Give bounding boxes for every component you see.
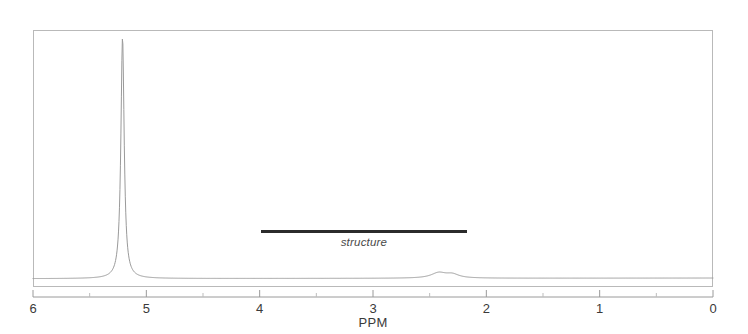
axis-tick-label: 4 [245, 301, 275, 316]
axis-title-ppm: PPM [333, 315, 413, 330]
axis-tick-marks [33, 290, 713, 297]
structure-label: structure [261, 236, 467, 248]
axis-tick-label: 5 [131, 301, 161, 316]
axis-tick-label: 0 [698, 301, 728, 316]
axis-tick-label: 1 [585, 301, 615, 316]
axis-tick-label: 3 [358, 301, 388, 316]
axis-tick-label: 2 [471, 301, 501, 316]
structure-range-bar [261, 230, 467, 233]
axis-layer [0, 0, 748, 334]
axis-tick-label: 6 [18, 301, 48, 316]
nmr-spectrum-figure: structure 6543210 PPM [0, 0, 748, 334]
